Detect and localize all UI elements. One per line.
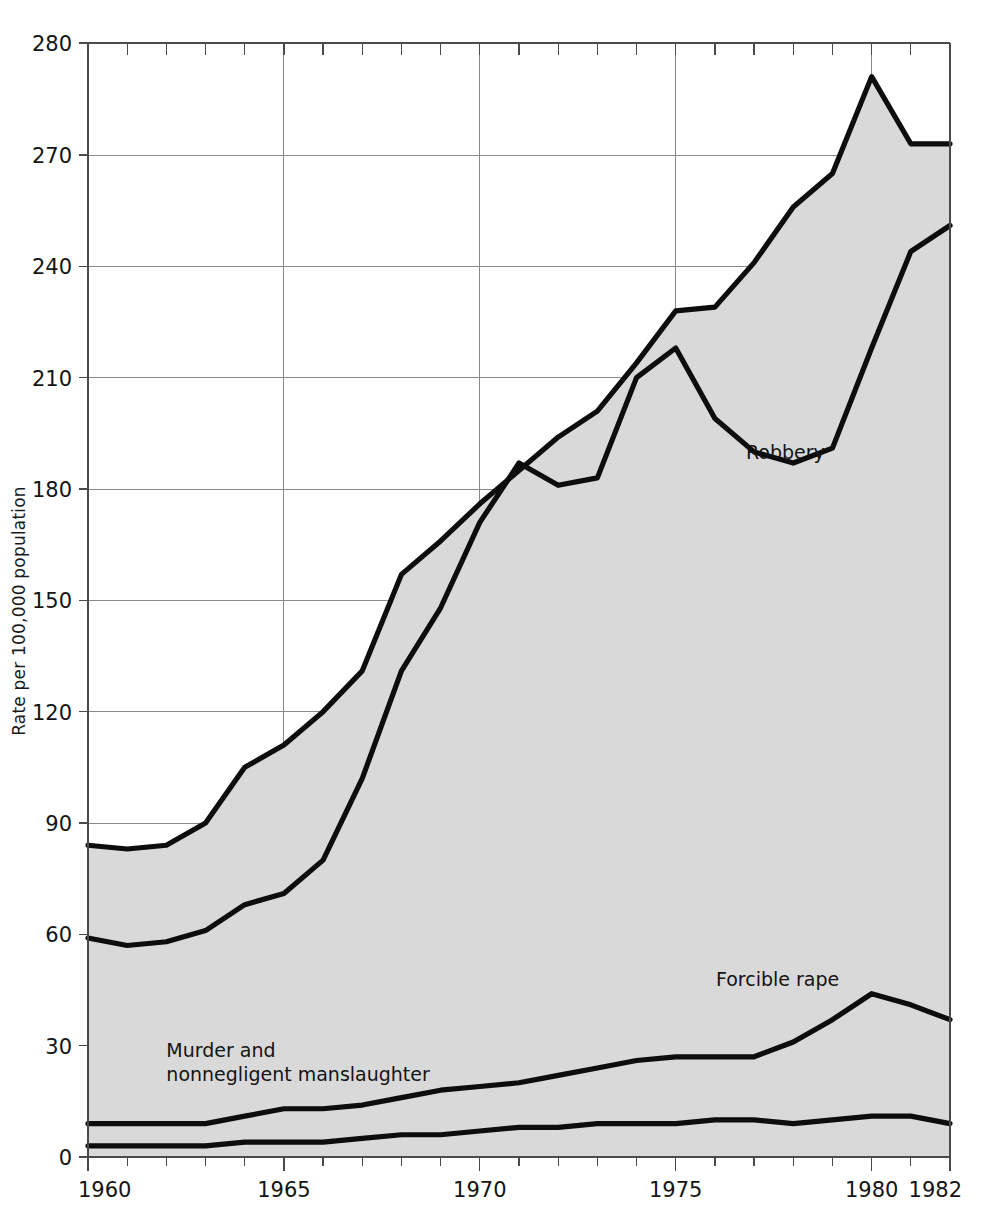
y-tick-label: 30 — [45, 1035, 72, 1059]
y-tick-label: 240 — [32, 255, 72, 279]
crime-rate-area-chart: Rate per 100,000 population 030609012015… — [0, 0, 991, 1222]
series-annotation-line: Murder and — [166, 1039, 275, 1061]
y-tick-label: 120 — [32, 701, 72, 725]
y-tick-label: 180 — [32, 478, 72, 502]
series-annotation: Forcible rape — [716, 968, 839, 990]
y-tick-label: 270 — [32, 144, 72, 168]
y-tick-label: 90 — [45, 812, 72, 836]
x-tick-label: 1965 — [257, 1178, 310, 1202]
y-tick-labels-group: 0306090120150180210240270280 — [32, 32, 72, 1170]
y-tick-label: 0 — [59, 1146, 72, 1170]
area-bands-group — [88, 77, 950, 1157]
x-tick-label: 1975 — [649, 1178, 702, 1202]
x-tick-labels-group: 196019651970197519801982 — [78, 1178, 962, 1202]
x-tick-label: 1970 — [453, 1178, 506, 1202]
series-annotation: Robbery — [746, 441, 825, 463]
x-tick-label: 1960 — [78, 1178, 131, 1202]
x-tick-label: 1980 — [845, 1178, 898, 1202]
x-tick-label: 1982 — [909, 1178, 962, 1202]
series-annotation-line: nonnegligent manslaughter — [166, 1063, 430, 1085]
chart-canvas: 0306090120150180210240270280 19601965197… — [0, 0, 991, 1222]
y-tick-label: 150 — [32, 589, 72, 613]
y-tick-label: 280 — [32, 32, 72, 56]
y-tick-label: 60 — [45, 923, 72, 947]
y-tick-label: 210 — [32, 367, 72, 391]
